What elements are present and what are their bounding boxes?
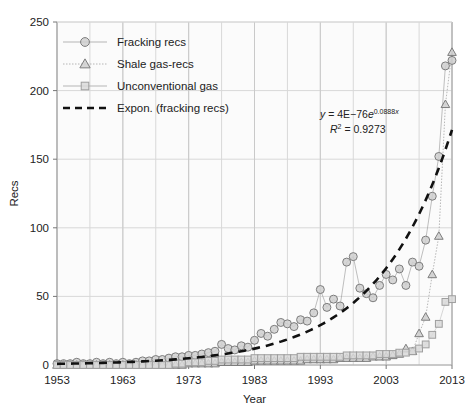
data-point-square <box>218 356 225 363</box>
data-point-square <box>264 355 271 362</box>
data-point-square <box>310 353 317 360</box>
data-point-square <box>225 356 232 363</box>
y-tick-label: 50 <box>36 290 49 302</box>
data-point-square <box>317 353 324 360</box>
data-point-square <box>396 349 403 356</box>
data-point-circle <box>376 281 384 289</box>
data-point-circle <box>270 325 278 333</box>
data-point-circle <box>356 284 364 292</box>
data-point-square <box>152 362 159 369</box>
chart-container: 0501001502002501953196319731983199320032… <box>0 0 476 416</box>
data-point-square <box>251 355 258 362</box>
data-point-circle <box>422 236 430 244</box>
x-tick-label: 1973 <box>176 374 202 386</box>
data-point-square <box>422 341 429 348</box>
x-tick-label: 1993 <box>308 374 334 386</box>
data-point-square <box>429 331 436 338</box>
data-point-square <box>291 355 298 362</box>
data-point-square <box>376 351 383 358</box>
data-point-square <box>330 353 337 360</box>
data-point-circle <box>251 336 259 344</box>
data-point-square <box>146 362 153 369</box>
legend-label-0: Fracking recs <box>117 36 186 48</box>
data-point-square <box>166 362 173 369</box>
data-point-square <box>356 352 363 359</box>
x-tick-label: 2013 <box>439 374 465 386</box>
data-point-square <box>416 345 423 352</box>
data-point-square <box>179 360 186 367</box>
data-point-circle <box>290 323 298 331</box>
data-point-square <box>185 359 192 366</box>
x-tick-label: 1963 <box>110 374 136 386</box>
legend-label-2: Unconventional gas <box>117 80 218 92</box>
data-point-circle <box>395 265 403 273</box>
data-point-circle <box>336 302 344 310</box>
x-axis-title: Year <box>243 393 266 405</box>
data-point-square <box>93 362 100 369</box>
data-point-square <box>350 352 357 359</box>
data-point-square <box>284 355 291 362</box>
y-tick-label: 200 <box>30 85 49 97</box>
data-point-circle <box>316 286 324 294</box>
x-tick-label: 2003 <box>373 374 399 386</box>
data-point-circle <box>402 281 410 289</box>
data-point-circle <box>369 294 377 302</box>
y-tick-label: 250 <box>30 16 49 28</box>
data-point-circle <box>343 258 351 266</box>
data-point-square <box>172 360 179 367</box>
data-point-square <box>192 359 199 366</box>
legend-label-3: Expon. (fracking recs) <box>117 102 229 114</box>
data-point-square <box>231 356 238 363</box>
data-point-square <box>258 355 265 362</box>
data-point-square <box>403 349 410 356</box>
data-point-square <box>442 298 449 305</box>
data-point-square <box>435 320 442 327</box>
data-point-square <box>409 348 416 355</box>
data-point-circle <box>415 262 423 270</box>
data-point-circle <box>323 303 331 311</box>
data-point-square <box>245 356 252 363</box>
data-point-square <box>343 352 350 359</box>
x-tick-label: 1953 <box>44 374 70 386</box>
data-point-square <box>277 355 284 362</box>
data-point-circle <box>428 192 436 200</box>
data-point-circle <box>330 295 338 303</box>
data-point-square <box>337 353 344 360</box>
data-point-square <box>324 353 331 360</box>
legend-label-1: Shale gas-recs <box>117 58 194 70</box>
data-point-square <box>198 359 205 366</box>
y-tick-label: 0 <box>43 359 49 371</box>
data-point-square <box>389 351 396 358</box>
exponential-growth-chart: 0501001502002501953196319731983199320032… <box>0 0 476 416</box>
data-point-square <box>383 351 390 358</box>
y-axis-title: Recs <box>8 180 20 206</box>
y-tick-label: 150 <box>30 153 49 165</box>
data-point-square <box>238 356 245 363</box>
data-point-circle <box>448 56 456 64</box>
data-point-circle <box>441 62 449 70</box>
x-tick-label: 1983 <box>242 374 268 386</box>
legend-marker-circle <box>81 38 90 47</box>
data-point-square <box>363 352 370 359</box>
data-point-square <box>370 352 377 359</box>
legend-marker-square <box>81 82 89 90</box>
data-point-square <box>106 362 113 369</box>
data-point-circle <box>349 253 357 261</box>
data-point-square <box>297 353 304 360</box>
data-point-circle <box>303 317 311 325</box>
data-point-square <box>205 357 212 364</box>
data-point-square <box>271 355 278 362</box>
data-point-circle <box>389 276 397 284</box>
data-point-square <box>159 362 166 369</box>
y-tick-label: 100 <box>30 222 49 234</box>
data-point-square <box>212 357 219 364</box>
data-point-square <box>304 353 311 360</box>
data-point-circle <box>264 332 272 340</box>
data-point-square <box>449 296 456 303</box>
data-point-circle <box>310 309 318 317</box>
